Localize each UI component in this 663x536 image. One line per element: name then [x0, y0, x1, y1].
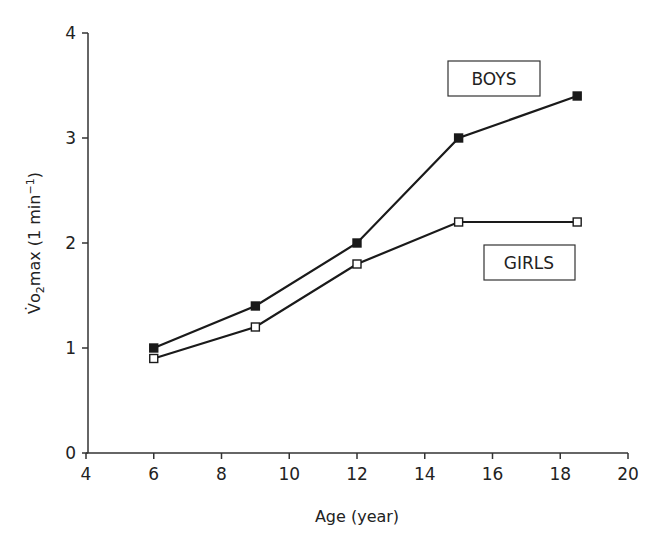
- x-tick-label: 12: [346, 464, 368, 484]
- x-tick-label: 20: [617, 464, 639, 484]
- data-point: [353, 260, 361, 268]
- legend-boys: BOYS: [448, 61, 540, 96]
- y-axis-title-sub: 2: [34, 286, 47, 293]
- legend-girls-label: GIRLS: [504, 253, 554, 273]
- x-tick-label: 10: [278, 464, 300, 484]
- x-tick-label: 8: [216, 464, 227, 484]
- y-tick-label: 2: [65, 233, 76, 253]
- y-axis-title-rest: max (1 min: [25, 195, 44, 287]
- x-axis-title: Age (year): [315, 507, 399, 526]
- x-tick-label: 18: [549, 464, 571, 484]
- x-tick-label: 6: [148, 464, 159, 484]
- y-axis-title: V̇o2max (1 min−1): [24, 172, 47, 314]
- data-point: [150, 344, 158, 352]
- line-chart: 01234 468101214161820 Age (year) V̇o2max…: [0, 0, 663, 536]
- legend-boys-label: BOYS: [472, 69, 517, 89]
- y-axis-title-close: ): [25, 172, 44, 178]
- x-ticks: 468101214161820: [81, 453, 639, 484]
- data-point: [150, 355, 158, 363]
- series-line: [154, 222, 577, 359]
- legend-girls: GIRLS: [484, 245, 575, 280]
- data-point: [455, 134, 463, 142]
- series-girls: [150, 218, 581, 363]
- y-tick-label: 4: [65, 23, 76, 43]
- data-point: [251, 323, 259, 331]
- x-tick-label: 4: [81, 464, 92, 484]
- y-ticks: 01234: [65, 23, 88, 463]
- y-tick-label: 0: [65, 443, 76, 463]
- x-tick-label: 14: [414, 464, 436, 484]
- data-point: [573, 218, 581, 226]
- y-tick-label: 1: [65, 338, 76, 358]
- data-point: [353, 239, 361, 247]
- y-tick-label: 3: [65, 128, 76, 148]
- series-layer: [150, 92, 581, 363]
- data-point: [573, 92, 581, 100]
- svg-text:V̇o2max (1 min−1): V̇o2max (1 min−1): [24, 172, 47, 314]
- y-axis-title-sup: −1: [24, 178, 37, 194]
- data-point: [455, 218, 463, 226]
- data-point: [251, 302, 259, 310]
- y-axis-title-main: V̇o: [25, 293, 44, 314]
- x-tick-label: 16: [482, 464, 504, 484]
